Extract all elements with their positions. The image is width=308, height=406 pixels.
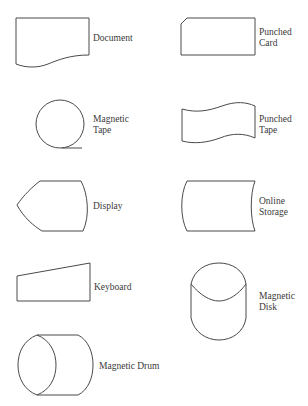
display-label: Display	[93, 201, 123, 212]
punched-card-label: Punched Card	[259, 27, 292, 49]
magnetic-tape-label: Magnetic Tape	[93, 114, 129, 136]
document-symbol	[16, 18, 89, 67]
display-symbol	[17, 181, 87, 231]
online-storage-symbol	[182, 181, 255, 231]
magnetic-disk-symbol	[191, 263, 246, 340]
magnetic-drum-symbol	[18, 335, 93, 395]
flowchart-symbols-diagram: Document Punched Card Magnetic Tape Punc…	[0, 0, 308, 406]
punched-tape-symbol	[182, 103, 255, 143]
magnetic-drum-label: Magnetic Drum	[99, 361, 159, 372]
keyboard-symbol	[17, 263, 90, 301]
keyboard-label: Keyboard	[94, 282, 131, 293]
punched-tape-label: Punched Tape	[259, 114, 292, 136]
magnetic-disk-label: Magnetic Disk	[259, 291, 295, 313]
punched-card-symbol	[181, 18, 255, 55]
magnetic-tape-symbol	[36, 100, 84, 148]
document-label: Document	[93, 33, 133, 44]
online-storage-label: Online Storage	[259, 196, 288, 218]
